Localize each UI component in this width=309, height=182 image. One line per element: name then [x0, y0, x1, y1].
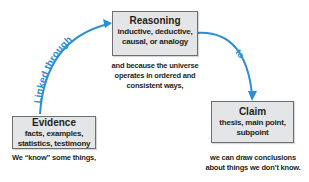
- node-line: statistics, testimony: [13, 139, 95, 149]
- node-title: Reasoning: [113, 15, 197, 27]
- caption-line: and because the universe: [100, 61, 210, 71]
- arrowhead-icon: [248, 91, 257, 101]
- evidence-caption: We “know” some things,: [5, 153, 103, 163]
- caption-line: We “know” some things,: [5, 153, 103, 163]
- evidence-node: Evidence facts, examples, statistics, te…: [12, 116, 96, 149]
- node-title: Claim: [212, 106, 293, 118]
- caption-line: about things we don’t know.: [200, 163, 306, 173]
- node-line: subpoint: [212, 128, 293, 138]
- caption-line: we can draw conclusions: [200, 153, 306, 163]
- caption-line: operates in ordered and: [100, 71, 210, 81]
- node-line: thesis, main point,: [212, 118, 293, 128]
- arrowhead-icon: [103, 19, 112, 28]
- edge-label-to: to: [233, 47, 246, 60]
- claim-node: Claim thesis, main point, subpoint: [211, 101, 294, 143]
- edge-label-linked-through: Linked through: [32, 34, 74, 104]
- node-line: causal, or analogy: [113, 37, 197, 47]
- node-title: Evidence: [13, 117, 95, 129]
- node-line: facts, examples,: [13, 129, 95, 139]
- caption-line: consistent ways,: [100, 81, 210, 91]
- reasoning-caption: and because the universe operates in ord…: [100, 61, 210, 91]
- node-line: inductive, deductive,: [113, 27, 197, 37]
- claim-caption: we can draw conclusions about things we …: [200, 153, 306, 173]
- reasoning-node: Reasoning inductive, deductive, causal, …: [112, 11, 198, 56]
